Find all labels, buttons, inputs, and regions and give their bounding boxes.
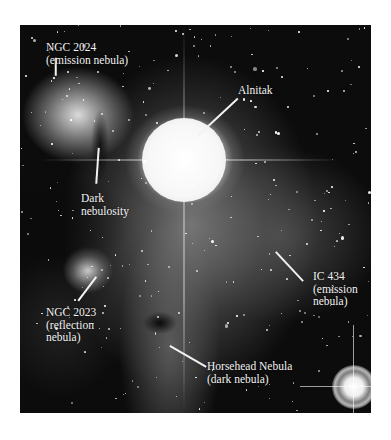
star	[72, 217, 73, 218]
star	[62, 99, 63, 100]
star	[21, 211, 23, 213]
star	[215, 34, 216, 35]
star	[145, 114, 147, 116]
star	[364, 27, 366, 29]
star	[306, 243, 308, 245]
star	[363, 267, 364, 268]
label-ic434: IC 434 (emission nebula)	[313, 270, 358, 308]
star	[104, 305, 105, 306]
star	[156, 122, 158, 124]
label-line: NGC 2024	[46, 41, 128, 54]
star	[327, 90, 329, 92]
star	[307, 68, 308, 69]
label-line: (dark nebula)	[207, 373, 292, 386]
star	[128, 119, 130, 121]
label-line: (reflection	[46, 319, 96, 332]
label-line: nebula)	[313, 295, 358, 308]
star	[151, 230, 152, 231]
bright-star	[332, 365, 371, 409]
star	[22, 165, 23, 166]
star	[331, 186, 333, 188]
star	[101, 113, 103, 115]
star	[94, 120, 95, 121]
nebula-photograph	[20, 25, 371, 413]
star	[220, 97, 221, 98]
bright-star-spike-v	[353, 325, 354, 413]
star	[297, 300, 299, 302]
star	[323, 210, 325, 212]
star	[141, 178, 142, 179]
star	[359, 335, 361, 337]
star	[203, 112, 205, 114]
star	[36, 323, 37, 324]
alnitak-star	[142, 118, 226, 202]
star	[236, 315, 238, 317]
star	[115, 398, 116, 399]
star	[262, 70, 263, 71]
star	[31, 112, 32, 113]
label-line: (emission	[313, 283, 358, 296]
label-line: nebulosity	[81, 205, 129, 218]
star	[226, 281, 227, 282]
star	[118, 159, 120, 161]
star	[324, 193, 325, 194]
label-line: Horsehead Nebula	[207, 360, 292, 373]
star	[338, 336, 339, 337]
label-line: Dark	[81, 192, 129, 205]
star	[122, 86, 123, 87]
star	[269, 253, 270, 254]
label-ngc2023: NGC 2023 (reflection nebula)	[46, 306, 96, 344]
label-line: NGC 2023	[46, 306, 96, 319]
star	[316, 133, 317, 134]
star	[258, 131, 260, 133]
star	[296, 191, 298, 193]
star	[191, 203, 193, 205]
star	[178, 180, 180, 182]
star	[112, 130, 114, 132]
star	[256, 134, 258, 136]
star	[25, 75, 27, 77]
star	[273, 179, 275, 181]
star	[145, 182, 147, 184]
star	[243, 314, 245, 316]
star	[225, 324, 229, 328]
star	[320, 230, 321, 231]
star	[275, 185, 276, 186]
star	[351, 60, 352, 61]
star	[343, 90, 345, 92]
star	[355, 151, 356, 152]
star	[332, 159, 333, 160]
star	[147, 264, 148, 265]
star	[201, 39, 202, 40]
star	[106, 337, 107, 338]
star	[345, 200, 346, 201]
star	[301, 321, 303, 323]
star	[368, 191, 371, 194]
star	[234, 71, 235, 72]
star	[74, 299, 76, 301]
star	[334, 246, 335, 247]
star	[253, 67, 257, 71]
star	[99, 328, 100, 329]
star	[168, 266, 169, 267]
star	[167, 70, 169, 72]
label-horsehead: Horsehead Nebula (dark nebula)	[207, 360, 292, 385]
star	[87, 277, 88, 278]
label-dark-nebulosity: Dark nebulosity	[81, 192, 129, 217]
star	[102, 312, 104, 314]
star	[299, 310, 301, 312]
star	[257, 236, 258, 237]
label-line: IC 434	[313, 270, 358, 283]
label-ngc2024: NGC 2024 (emission nebula)	[46, 41, 128, 66]
star	[230, 66, 232, 68]
star	[33, 39, 36, 42]
star	[286, 278, 287, 279]
star	[250, 28, 251, 29]
star	[123, 394, 124, 395]
star	[53, 77, 55, 79]
star	[330, 208, 332, 210]
star	[336, 240, 338, 242]
label-line: nebula)	[46, 331, 96, 344]
star	[51, 143, 53, 145]
star	[227, 322, 229, 324]
